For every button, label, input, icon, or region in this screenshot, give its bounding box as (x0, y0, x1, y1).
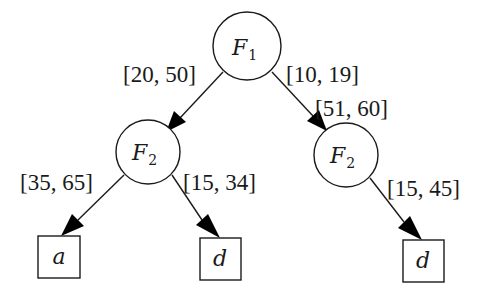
edge-label-root-right-2: [51, 60] (315, 96, 388, 121)
node-root: F1 (213, 12, 281, 80)
node-left: F2 (116, 120, 180, 184)
edge-label-right-d: [15, 45] (387, 176, 460, 201)
edge-labels: [20, 50] [10, 19] [51, 60] [35, 65] [15,… (20, 62, 460, 201)
edge-label-left-a: [35, 65] (20, 170, 93, 195)
leaf-d1: d (200, 238, 241, 280)
edge-label-left-d: [15, 34] (183, 170, 256, 195)
leaf-a: a (38, 236, 80, 278)
leaf-d2: d (403, 240, 444, 282)
decision-tree-diagram: [20, 50] [10, 19] [51, 60] [35, 65] [15,… (0, 0, 485, 304)
leaf-d1-label: d (213, 246, 227, 271)
edge-label-root-left: [20, 50] (123, 62, 196, 87)
edge-label-root-right-1: [10, 19] (286, 62, 359, 87)
node-right: F2 (314, 123, 378, 187)
leaf-d2-label: d (416, 248, 430, 273)
leaf-a-label: a (52, 244, 65, 269)
